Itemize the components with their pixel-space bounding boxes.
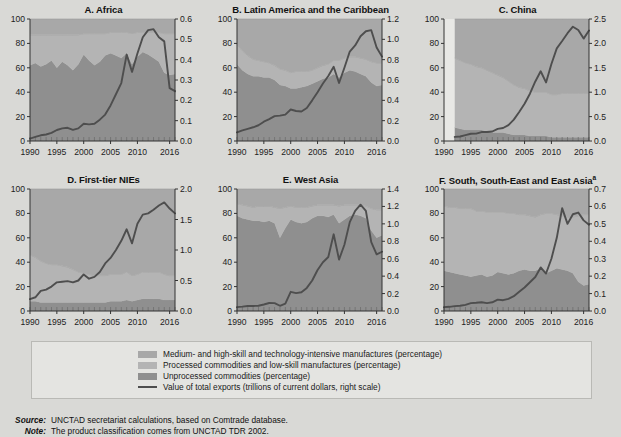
note-text: UNCTAD secretariat calculations, based o… — [51, 415, 621, 425]
y-right-tick-label: 1.2 — [387, 14, 399, 24]
y-right-tick-label: 0.6 — [594, 201, 606, 211]
panel-title-a: A. Africa — [0, 4, 207, 15]
y-right-tick-label: 1.0 — [594, 87, 606, 97]
chart-svg-b: 0204060801000.00.20.40.60.81.01.21990199… — [207, 0, 414, 170]
panel-grid: A. Africa0204060801000.00.10.20.30.40.50… — [0, 0, 621, 340]
y-right-tick-label: 0.3 — [594, 254, 606, 264]
chart-panel-f: F. South, South-East and East Asiaa02040… — [414, 170, 621, 340]
chart-panel-a: A. Africa0204060801000.00.10.20.30.40.50… — [0, 0, 207, 170]
chart-svg-a: 0204060801000.00.10.20.30.40.50.61990199… — [0, 0, 207, 170]
y-right-tick-label: 0.2 — [180, 95, 192, 105]
chart-svg-d: 0204060801000.00.51.01.52.01990199520002… — [0, 170, 207, 340]
y-right-tick-label: 2.0 — [594, 38, 606, 48]
panel-title-c: C. China — [414, 4, 621, 15]
y-left-tick-label: 100 — [11, 184, 26, 194]
panel-title-e: E. West Asia — [207, 174, 414, 185]
y-left-tick-label: 0 — [20, 136, 25, 146]
area-series-0 — [237, 215, 382, 311]
y-right-tick-label: 1.0 — [387, 219, 399, 229]
y-right-tick-label: 0.4 — [387, 271, 399, 281]
legend-color-swatch — [138, 351, 157, 358]
chart-panel-c: C. China0204060801000.00.51.01.52.02.519… — [414, 0, 621, 170]
x-tick-label: 2005 — [101, 317, 120, 327]
legend-item-processed-low-skill: Processed commodities and low-skill manu… — [138, 360, 442, 371]
y-left-tick-label: 40 — [429, 257, 439, 267]
x-tick-label: 2010 — [128, 317, 147, 327]
y-right-tick-label: 0.4 — [180, 55, 192, 65]
chart-panel-e: E. West Asia0204060801000.00.20.40.60.81… — [207, 170, 414, 340]
x-tick-label: 1990 — [227, 147, 246, 157]
x-tick-label: 1990 — [20, 147, 39, 157]
y-left-tick-label: 60 — [15, 233, 25, 243]
y-left-tick-label: 100 — [11, 14, 26, 24]
y-left-tick-label: 20 — [15, 282, 25, 292]
y-left-tick-label: 20 — [222, 112, 232, 122]
x-tick-label: 2000 — [488, 147, 507, 157]
y-left-tick-label: 100 — [218, 184, 233, 194]
y-left-tick-label: 0 — [227, 306, 232, 316]
y-left-tick-label: 40 — [429, 87, 439, 97]
y-right-tick-label: 2.5 — [594, 14, 606, 24]
legend-label: Processed commodities and low-skill manu… — [163, 360, 401, 370]
legend-rows: Medium- and high-skill and technology-in… — [138, 349, 442, 393]
y-right-tick-label: 1.5 — [594, 63, 606, 73]
y-left-tick-label: 100 — [218, 14, 233, 24]
y-left-tick-label: 60 — [15, 63, 25, 73]
y-right-tick-label: 0.8 — [387, 236, 399, 246]
x-tick-label: 2000 — [74, 317, 93, 327]
y-right-tick-label: 0.2 — [387, 116, 399, 126]
legend-label: Value of total exports (trillions of cur… — [163, 382, 381, 392]
y-left-tick-label: 60 — [222, 63, 232, 73]
y-right-tick-label: 1.0 — [180, 245, 192, 255]
y-right-tick-label: 1.5 — [180, 215, 192, 225]
x-tick-label: 2010 — [335, 147, 354, 157]
chart-svg-f: 0204060801000.00.10.20.30.40.50.60.71990… — [414, 170, 621, 340]
area-series-0 — [30, 52, 175, 141]
x-tick-label: 1990 — [434, 147, 453, 157]
y-right-tick-label: 0.0 — [180, 306, 192, 316]
y-right-tick-label: 0.0 — [594, 306, 606, 316]
area-series-2 — [30, 189, 175, 276]
y-right-tick-label: 0.5 — [594, 219, 606, 229]
x-tick-label: 2005 — [515, 147, 534, 157]
y-left-tick-label: 80 — [429, 38, 439, 48]
panel-title-b: B. Latin America and the Caribbean — [207, 4, 414, 15]
y-left-tick-label: 20 — [15, 112, 25, 122]
legend-item-medium-high-skill: Medium- and high-skill and technology-in… — [138, 349, 442, 360]
x-tick-label: 1995 — [254, 317, 273, 327]
x-tick-label: 2016 — [367, 317, 386, 327]
x-tick-label: 2016 — [160, 147, 179, 157]
y-left-tick-label: 20 — [222, 282, 232, 292]
y-left-tick-label: 0 — [227, 136, 232, 146]
y-right-tick-label: 0.2 — [594, 271, 606, 281]
y-left-tick-label: 20 — [429, 282, 439, 292]
y-left-tick-label: 80 — [222, 38, 232, 48]
y-left-tick-label: 80 — [222, 208, 232, 218]
y-left-tick-label: 40 — [222, 87, 232, 97]
y-right-tick-label: 0.0 — [180, 136, 192, 146]
y-left-tick-label: 80 — [15, 208, 25, 218]
x-tick-label: 2016 — [574, 147, 593, 157]
y-right-tick-label: 0.6 — [180, 14, 192, 24]
x-tick-label: 1990 — [20, 317, 39, 327]
y-right-tick-label: 0.3 — [180, 75, 192, 85]
y-right-tick-label: 0.1 — [594, 289, 606, 299]
x-tick-label: 1990 — [227, 317, 246, 327]
y-right-tick-label: 0.4 — [387, 95, 399, 105]
x-tick-label: 2010 — [128, 147, 147, 157]
note-key: Source: — [0, 415, 46, 425]
y-right-tick-label: 0.5 — [180, 34, 192, 44]
y-right-tick-label: 1.2 — [387, 201, 399, 211]
y-left-tick-label: 80 — [15, 38, 25, 48]
y-right-tick-label: 0.6 — [387, 75, 399, 85]
legend-item-total-exports: Value of total exports (trillions of cur… — [138, 382, 442, 393]
legend-color-swatch — [138, 362, 157, 369]
y-left-tick-label: 0 — [20, 306, 25, 316]
legend-item-unprocessed: Unprocessed commodities (percentage) — [138, 371, 442, 382]
y-right-tick-label: 0.5 — [180, 276, 192, 286]
y-right-tick-label: 2.0 — [180, 184, 192, 194]
x-tick-label: 2005 — [515, 317, 534, 327]
chart-svg-e: 0204060801000.00.20.40.60.81.01.21.41990… — [207, 170, 414, 340]
y-left-tick-label: 60 — [429, 233, 439, 243]
